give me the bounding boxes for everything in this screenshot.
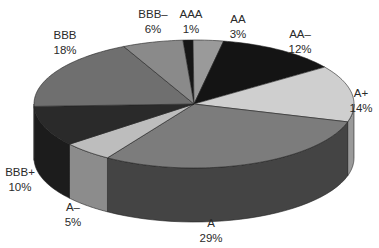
slice-label-name: AA (230, 12, 247, 27)
slice-label-name: A– (65, 200, 82, 215)
slice-label-name: AAA (179, 7, 202, 22)
slice-label: AA–12% (288, 27, 311, 57)
slice-label-name: BBB– (138, 7, 167, 22)
slice-label-pct: 10% (5, 180, 35, 195)
slice-label: A29% (199, 216, 222, 246)
slice-label-pct: 5% (65, 215, 82, 230)
slice-label-pct: 12% (288, 42, 311, 57)
slice-label: AAA1% (179, 7, 202, 37)
slice-label-name: BBB+ (5, 165, 35, 180)
slice-label: BBB–6% (138, 7, 167, 37)
slice-label-pct: 18% (53, 43, 76, 58)
slice-label-pct: 29% (199, 231, 222, 246)
slice-label-name: A (199, 216, 222, 231)
slice-label: A+14% (349, 86, 372, 116)
slice-label-pct: 14% (349, 101, 372, 116)
slice-label-name: A+ (349, 86, 372, 101)
slice-label-pct: 1% (179, 22, 202, 37)
pie-tops (34, 40, 354, 168)
slice-label-name: AA– (288, 27, 311, 42)
slice-label: BBB18% (53, 28, 76, 58)
slice-label: A–5% (65, 200, 82, 230)
slice-label-pct: 3% (230, 27, 247, 42)
slice-label: BBB+10% (5, 165, 35, 195)
slice-label-pct: 6% (138, 22, 167, 37)
slice-label: AA3% (230, 12, 247, 42)
slice-label-name: BBB (53, 28, 76, 43)
